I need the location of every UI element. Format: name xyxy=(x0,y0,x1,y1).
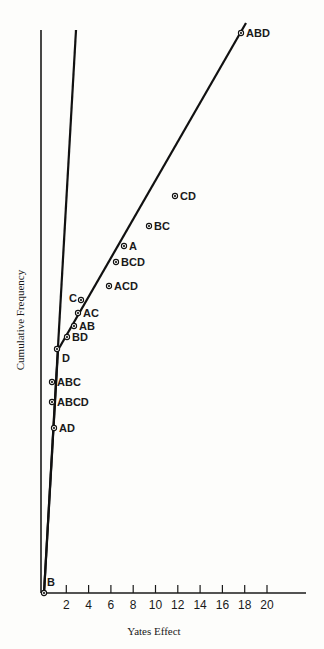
x-ticks: 2468101214161820 xyxy=(63,585,274,612)
point-dot xyxy=(77,312,79,314)
data-point: ACD xyxy=(106,280,137,292)
x-tick-label: 4 xyxy=(85,598,92,612)
point-dot xyxy=(51,401,53,403)
x-tick-label: 18 xyxy=(238,598,252,612)
point-label: BCD xyxy=(121,256,145,268)
shallow-line xyxy=(58,23,246,350)
point-label: AC xyxy=(83,307,99,319)
data-point: AC xyxy=(75,307,99,319)
point-label: A xyxy=(129,240,137,252)
x-tick-label: 8 xyxy=(130,598,137,612)
point-label: ABC xyxy=(57,376,81,388)
point-label: CD xyxy=(180,190,196,202)
x-tick-label: 16 xyxy=(216,598,230,612)
fitted-lines xyxy=(44,23,246,593)
x-tick-label: 10 xyxy=(149,598,163,612)
data-point: A xyxy=(121,240,137,252)
point-dot xyxy=(174,195,176,197)
point-dot xyxy=(115,261,117,263)
point-dot xyxy=(66,336,68,338)
x-tick-label: 6 xyxy=(108,598,115,612)
point-dot xyxy=(43,592,45,594)
point-label: ACD xyxy=(114,280,138,292)
point-dot xyxy=(123,245,125,247)
lower-segment xyxy=(44,350,58,593)
data-point: AD xyxy=(51,422,75,434)
point-dot xyxy=(80,299,82,301)
point-label: C xyxy=(69,292,77,304)
point-dot xyxy=(73,325,75,327)
point-label: BD xyxy=(72,331,88,343)
x-tick-label: 2 xyxy=(63,598,70,612)
point-dot xyxy=(51,381,53,383)
x-tick-label: 12 xyxy=(171,598,185,612)
point-dot xyxy=(53,427,55,429)
x-axis-title: Yates Effect xyxy=(127,625,180,637)
x-tick-label: 14 xyxy=(193,598,207,612)
point-label: ABCD xyxy=(57,396,89,408)
point-label: D xyxy=(62,352,70,364)
data-point: C xyxy=(69,292,84,304)
point-label: AD xyxy=(59,422,75,434)
point-label: B xyxy=(47,576,55,588)
point-label: ABD xyxy=(246,27,270,39)
data-point: ABC xyxy=(49,376,80,388)
point-dot xyxy=(240,32,242,34)
data-point: CD xyxy=(172,190,196,202)
chart: 2468101214161820 BADABCDABCDBDABACCACDBC… xyxy=(0,0,324,649)
point-dot xyxy=(108,285,110,287)
data-point: BCD xyxy=(113,256,144,268)
data-points: BADABCDABCDBDABACCACDBCDABCCDABD xyxy=(41,27,269,596)
point-dot xyxy=(148,225,150,227)
point-dot xyxy=(56,348,58,350)
y-axis-title: Cumulative Frequency xyxy=(14,269,26,370)
point-label: AB xyxy=(79,320,95,332)
data-point: BC xyxy=(146,220,170,232)
point-label: BC xyxy=(154,220,170,232)
x-tick-label: 20 xyxy=(260,598,274,612)
